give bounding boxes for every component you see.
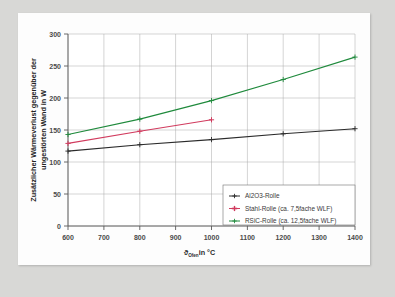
- x-tick-label: 600: [62, 234, 74, 241]
- x-tick-label: 1100: [240, 234, 255, 241]
- legend-label-rsic: RSiC-Rolle (ca. 12,5fache WLF): [245, 217, 336, 225]
- y-tick-label: 0: [57, 223, 61, 230]
- legend-item-rsic[interactable]: RSiC-Rolle (ca. 12,5fache WLF): [229, 217, 336, 225]
- y-axis-title: Zusätzlicher Wärmeverlust gegenüber der …: [29, 58, 48, 202]
- y-tick-label: 150: [49, 127, 61, 134]
- x-axis-title-subscript: Ofen: [188, 253, 199, 258]
- svg-text:ϑOfenin °C: ϑOfenin °C: [184, 248, 215, 258]
- legend-label-al2o3: Al2O3-Rolle: [245, 192, 280, 199]
- y-tick-label: 300: [49, 31, 61, 38]
- legend-item-stahl[interactable]: Stahl-Rolle (ca. 7,5fache WLF): [229, 205, 332, 213]
- line-chart: 300 250 200 150 100 50 0 600 700 800 900…: [18, 13, 370, 265]
- y-axis-tick-labels: 300 250 200 150 100 50 0: [49, 31, 61, 230]
- x-tick-label: 1200: [275, 234, 291, 241]
- page-background: 300 250 200 150 100 50 0 600 700 800 900…: [0, 0, 395, 297]
- x-tick-label: 800: [134, 234, 146, 241]
- x-axis-title-main: in °C: [199, 248, 215, 257]
- x-axis-ticks: [68, 226, 355, 230]
- x-tick-label: 1400: [347, 234, 363, 241]
- x-axis-title: ϑOfenin °C: [184, 248, 215, 258]
- x-tick-label: 700: [98, 234, 110, 241]
- y-axis-ticks: [64, 34, 68, 226]
- x-tick-label: 1000: [204, 234, 220, 241]
- y-tick-label: 250: [49, 63, 61, 70]
- y-tick-label: 50: [53, 191, 61, 198]
- scanned-paper-sheet: 300 250 200 150 100 50 0 600 700 800 900…: [18, 13, 370, 265]
- y-axis-title-line2: ungestörten Wand in W: [39, 90, 48, 170]
- legend-label-stahl: Stahl-Rolle (ca. 7,5fache WLF): [245, 205, 332, 213]
- y-axis-title-line1: Zusätzlicher Wärmeverlust gegenüber der: [29, 58, 38, 202]
- y-tick-label: 200: [49, 95, 61, 102]
- x-tick-label: 1300: [311, 234, 327, 241]
- x-tick-label: 900: [170, 234, 182, 241]
- x-axis-tick-labels: 600 700 800 900 1000 1100 1200 1300 1400: [62, 234, 363, 241]
- chart-legend: Al2O3-Rolle Stahl-Rolle (ca. 7,5fache WL…: [223, 185, 355, 225]
- y-tick-label: 100: [49, 159, 61, 166]
